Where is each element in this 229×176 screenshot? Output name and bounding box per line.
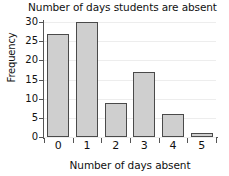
y-axis-tick [39, 80, 44, 81]
gridline [44, 22, 216, 23]
bar-chart: Number of days students are absent Frequ… [0, 0, 229, 176]
x-axis-tick-label: 4 [163, 140, 183, 151]
y-axis-tick-labels: 051015202530 [12, 0, 38, 176]
y-axis-tick [39, 118, 44, 119]
y-axis-tick-label: 5 [16, 113, 38, 123]
x-axis-tick [73, 138, 74, 143]
x-axis-tick-label: 5 [192, 140, 212, 151]
x-axis-tick [44, 138, 45, 143]
y-axis-tick [39, 99, 44, 100]
y-axis-tick-label: 10 [16, 94, 38, 104]
x-axis-tick-label: 1 [77, 140, 97, 151]
bar [47, 34, 69, 138]
plot-area [44, 22, 216, 137]
bar [191, 133, 213, 137]
x-axis-tick [159, 138, 160, 143]
y-axis-tick [39, 60, 44, 61]
x-axis-title: Number of days absent [44, 159, 216, 171]
y-axis-tick [39, 22, 44, 23]
gridline [44, 99, 216, 100]
y-axis-tick-label: 20 [16, 55, 38, 65]
x-axis-tick [216, 138, 217, 143]
x-axis-tick [130, 138, 131, 143]
gridline [44, 80, 216, 81]
y-axis-tick-label: 30 [16, 17, 38, 27]
y-axis-tick-label: 25 [16, 36, 38, 46]
x-axis-tick-label: 2 [106, 140, 126, 151]
chart-title: Number of days students are absent [20, 1, 225, 13]
bar [162, 114, 184, 137]
x-axis-tick-label: 3 [134, 140, 154, 151]
y-axis-tick-label: 15 [16, 75, 38, 85]
x-axis-tick [187, 138, 188, 143]
gridline [44, 118, 216, 119]
bar [133, 72, 155, 137]
bar [76, 22, 98, 137]
x-axis-tick-label: 0 [48, 140, 68, 151]
y-axis-tick-label: 0 [16, 132, 38, 142]
y-axis-tick [39, 41, 44, 42]
bar [105, 103, 127, 138]
gridline [44, 41, 216, 42]
x-axis-tick [101, 138, 102, 143]
gridline [44, 60, 216, 61]
